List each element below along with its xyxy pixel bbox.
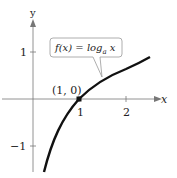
y-axis-label: y: [29, 7, 36, 18]
log-graph: 1 2 1 −1 x y (1, 0) f(x) = loga x: [0, 0, 177, 178]
x-tick-label-1: 1: [77, 106, 84, 119]
x-tick-label-2: 2: [123, 106, 130, 119]
log-curve: [44, 57, 150, 172]
y-tick-label-neg1: −1: [10, 140, 26, 153]
point-label: (1, 0): [52, 84, 82, 97]
y-tick-label-1: 1: [20, 46, 27, 59]
point-1-0: [77, 97, 82, 102]
x-axis-label: x: [161, 93, 168, 106]
y-axis-arrow-icon: [30, 19, 36, 27]
